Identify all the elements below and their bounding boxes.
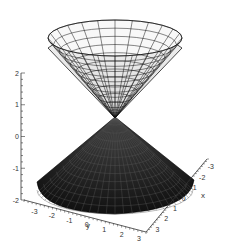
y-tick-label: 3 [137,235,141,242]
z-tick-label: -2 [13,197,19,204]
y-axis-title: y [86,221,90,230]
z-tick-label: -1 [13,165,19,172]
lower-cone [37,117,194,214]
cone-surface-plot: 210-1-2 -3-2-10123 y 3210-1-2-3 x [0,0,226,243]
x-tick-label: 0 [182,195,186,202]
z-axis: 210-1-2 [13,70,25,204]
x-tick-label: 3 [155,226,159,233]
x-axis-title: x [201,191,205,200]
z-tick-label: 1 [15,101,19,108]
z-tick-label: 2 [15,70,19,77]
x-tick-label: 2 [164,215,168,222]
x-tick-label: -3 [208,163,214,170]
y-tick-label: 1 [102,226,106,233]
y-tick-label: 2 [120,231,124,238]
y-tick-label: -1 [66,217,72,224]
upper-cone [48,20,182,118]
z-tick-label: 0 [15,133,19,140]
y-tick-label: -3 [31,208,37,215]
x-tick-label: -2 [199,174,205,181]
x-tick-label: -1 [190,184,196,191]
x-tick-label: 1 [173,205,177,212]
y-tick-label: -2 [49,212,55,219]
